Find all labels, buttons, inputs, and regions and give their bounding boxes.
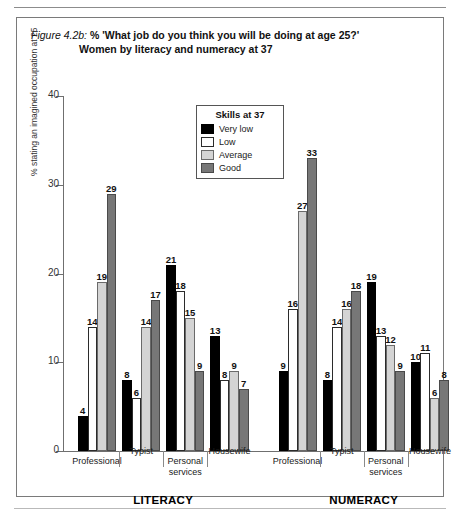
bar-value-label: 9 — [281, 360, 286, 371]
bar-value-label: 14 — [87, 316, 98, 327]
legend-item-very-low: Very low — [201, 122, 279, 135]
bar: 4 — [78, 416, 88, 452]
bar: 10 — [411, 362, 421, 451]
category-label: Housewife — [409, 446, 451, 456]
bar: 9 — [395, 371, 405, 451]
bar: 16 — [288, 309, 298, 451]
bar-value-label: 29 — [106, 183, 117, 194]
bar: 8 — [323, 380, 333, 451]
category-label: Typist — [129, 446, 153, 456]
bar-value-label: 14 — [141, 316, 152, 327]
bar: 21 — [166, 265, 176, 451]
y-tick-label: 10 — [48, 355, 59, 366]
bar: 12 — [386, 345, 396, 452]
bar-value-label: 21 — [166, 254, 177, 265]
bar: 8 — [439, 380, 449, 451]
bar: 19 — [367, 282, 377, 451]
bar-value-label: 19 — [97, 271, 108, 282]
bar: 13 — [210, 336, 220, 451]
bar: 11 — [420, 353, 430, 451]
bar: 6 — [132, 398, 142, 451]
category-label: Personal services — [358, 456, 414, 477]
bar: 14 — [88, 327, 98, 451]
legend-label: Good — [219, 163, 241, 173]
figure-page: Figure 4.2b: % 'What job do you think yo… — [0, 0, 460, 515]
bar-value-label: 7 — [241, 378, 246, 389]
category-label: Professional — [72, 456, 122, 466]
bar-value-label: 11 — [420, 342, 430, 353]
category-label: Professional — [273, 456, 323, 466]
bar-value-label: 14 — [332, 316, 343, 327]
category-label: Typist — [330, 446, 354, 456]
y-tick-label: 0 — [53, 444, 59, 455]
category-tick — [320, 451, 321, 467]
legend-label: Average — [219, 150, 252, 160]
legend-entries: Very lowLowAverageGood — [201, 122, 279, 174]
top-divider-rule — [14, 7, 446, 8]
legend-label: Very low — [219, 124, 253, 134]
bar-value-label: 19 — [366, 271, 377, 282]
figure-frame: Figure 4.2b: % 'What job do you think yo… — [16, 17, 444, 497]
category-label: Personal services — [157, 456, 213, 477]
bar: 8 — [122, 380, 132, 451]
legend-swatch-very-low — [201, 124, 214, 134]
bar-value-label: 6 — [134, 387, 139, 398]
bottom-divider-rule — [14, 508, 446, 509]
bar: 7 — [239, 389, 249, 451]
bar: 33 — [307, 158, 317, 451]
bar-value-label: 8 — [325, 369, 330, 380]
bar: 14 — [141, 327, 151, 451]
bar: 15 — [185, 318, 195, 451]
bar-value-label: 13 — [210, 325, 221, 336]
bar-value-label: 8 — [124, 369, 129, 380]
figure-caption: Figure 4.2b: % 'What job do you think yo… — [31, 28, 431, 56]
bar: 27 — [298, 211, 308, 451]
caption-subtitle: Women by literacy and numeracy at 37 — [79, 42, 431, 56]
y-tick-label: 30 — [48, 178, 59, 189]
legend-label: Low — [219, 137, 236, 147]
group-label-literacy: LITERACY — [133, 494, 193, 506]
bar-value-label: 4 — [80, 405, 85, 416]
bar-value-label: 12 — [385, 334, 396, 345]
bar-value-label: 15 — [185, 307, 196, 318]
bar-value-label: 8 — [222, 369, 227, 380]
bar: 17 — [151, 300, 161, 451]
category-label: Housewife — [208, 446, 250, 456]
bar: 8 — [220, 380, 230, 451]
bar-value-label: 18 — [175, 280, 186, 291]
bar: 13 — [376, 336, 386, 451]
bar-value-label: 6 — [432, 387, 437, 398]
y-axis-label: % stating an imagined occupation at 25 — [29, 0, 39, 176]
group-label-numeracy: NUMERACY — [329, 494, 398, 506]
bar-value-label: 9 — [197, 360, 202, 371]
bar-value-label: 8 — [442, 369, 447, 380]
bar-value-label: 18 — [351, 280, 362, 291]
bar: 9 — [229, 371, 239, 451]
legend-swatch-average — [201, 150, 214, 160]
legend-swatch-good — [201, 163, 214, 173]
legend: Skills at 37 Very lowLowAverageGood — [196, 105, 284, 179]
bar-value-label: 9 — [232, 360, 237, 371]
bar: 29 — [107, 194, 117, 451]
bar: 19 — [97, 282, 107, 451]
y-tick-label: 20 — [48, 267, 59, 278]
bar-value-label: 16 — [341, 298, 352, 309]
bar-value-label: 9 — [397, 360, 402, 371]
bar: 9 — [279, 371, 289, 451]
bar: 14 — [332, 327, 342, 451]
bar: 18 — [351, 291, 361, 451]
y-tick-label: 40 — [48, 89, 59, 100]
category-tick — [119, 451, 120, 467]
legend-item-good: Good — [201, 161, 279, 174]
caption-question: % 'What job do you think you will be doi… — [90, 29, 359, 41]
bar-value-label: 33 — [307, 147, 318, 158]
bar: 6 — [430, 398, 440, 451]
legend-item-average: Average — [201, 148, 279, 161]
legend-title: Skills at 37 — [201, 109, 279, 120]
legend-swatch-low — [201, 137, 214, 147]
legend-item-low: Low — [201, 135, 279, 148]
bar: 16 — [342, 309, 352, 451]
bar-value-label: 16 — [288, 298, 299, 309]
bar: 9 — [195, 371, 205, 451]
caption-label: Figure 4.2b: — [31, 29, 87, 41]
